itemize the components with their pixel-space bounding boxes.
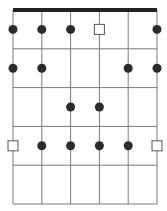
root-note-marker bbox=[94, 24, 104, 34]
root-note-marker bbox=[8, 141, 18, 151]
note-dot bbox=[95, 103, 104, 112]
note-dot bbox=[9, 64, 18, 73]
note-dot bbox=[37, 141, 46, 150]
note-dot bbox=[153, 25, 162, 34]
note-dot bbox=[66, 25, 75, 34]
note-dot bbox=[124, 141, 133, 150]
note-dot bbox=[124, 64, 133, 73]
note-dot bbox=[66, 141, 75, 150]
note-dot bbox=[95, 141, 104, 150]
fretboard-grid bbox=[13, 8, 157, 204]
note-dot bbox=[37, 64, 46, 73]
fretboard-diagram bbox=[0, 0, 167, 211]
note-dot bbox=[37, 25, 46, 34]
nut bbox=[13, 8, 157, 12]
note-dot bbox=[66, 103, 75, 112]
root-note-marker bbox=[152, 141, 162, 151]
note-dot bbox=[153, 64, 162, 73]
note-dot bbox=[9, 25, 18, 34]
